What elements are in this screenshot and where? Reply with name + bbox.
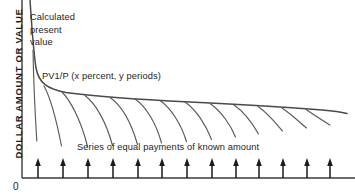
origin-label: 0	[13, 181, 19, 192]
payment-arrows-group	[35, 158, 333, 178]
payment-arrow	[35, 158, 41, 178]
payment-arrow	[256, 158, 262, 178]
payment-arrow	[159, 158, 165, 178]
decay-curves-group	[33, 50, 330, 147]
series-of-payments-label: Series of equal payments of known amount	[77, 142, 259, 152]
payment-arrow	[280, 158, 286, 178]
decay-curve	[258, 107, 283, 132]
decay-curve	[234, 105, 259, 134]
y-axis-title: DOLLAR AMOUNT OR VALUE	[13, 4, 24, 164]
decay-curve	[135, 99, 162, 143]
payment-arrow	[327, 158, 333, 178]
payment-arrow	[304, 158, 310, 178]
decay-curve	[85, 96, 113, 146]
payment-arrow	[209, 158, 215, 178]
pv-formula-label: PV1/P (x percent, y periods)	[42, 71, 161, 81]
present-value-envelope-curve	[30, 0, 347, 114]
payment-arrow	[85, 158, 91, 178]
payment-arrow	[60, 158, 66, 178]
payment-arrow	[233, 158, 239, 178]
decay-curve	[306, 110, 330, 126]
decay-curve	[62, 92, 88, 147]
calculated-present-value-label: Calculated present value	[30, 11, 75, 49]
decay-curve	[44, 86, 62, 146]
present-value-figure: DOLLAR AMOUNT OR VALUE Calculated presen…	[0, 0, 355, 196]
payment-arrow	[110, 158, 116, 178]
payment-arrow	[184, 158, 190, 178]
payment-arrow	[135, 158, 141, 178]
decay-curve	[160, 101, 187, 142]
decay-curve	[185, 102, 212, 140]
decay-curve	[110, 98, 138, 145]
decay-curve	[282, 108, 307, 128]
decay-curve	[210, 104, 236, 138]
envelope-curve-group	[30, 0, 347, 114]
